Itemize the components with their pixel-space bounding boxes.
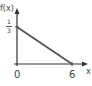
y-tick-numerator: 1 xyxy=(7,18,11,25)
x-axis-arrow-icon xyxy=(82,62,88,67)
x-tick-label-6: 6 xyxy=(69,70,75,80)
y-tick-denominator: 3 xyxy=(7,27,11,34)
y-axis-arrow-icon xyxy=(15,8,20,14)
y-axis-label: f(x) xyxy=(0,5,14,13)
x-tick-label-0: 0 xyxy=(14,70,20,80)
x-axis-label: x xyxy=(86,68,91,76)
function-line xyxy=(17,27,72,64)
y-tick-label: 1 3 xyxy=(6,19,12,34)
